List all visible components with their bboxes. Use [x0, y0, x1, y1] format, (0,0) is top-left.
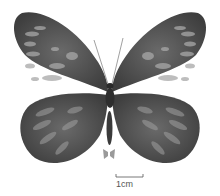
scale-bar: [116, 174, 143, 177]
thorax: [106, 88, 115, 108]
left-forewing: [14, 12, 108, 92]
scale-bar-label: 1cm: [116, 179, 133, 189]
abdomen: [107, 111, 113, 145]
right-forewing: [112, 12, 206, 92]
butterfly-specimen: [0, 0, 220, 196]
actual-size-butterfly-icon: [103, 149, 115, 159]
